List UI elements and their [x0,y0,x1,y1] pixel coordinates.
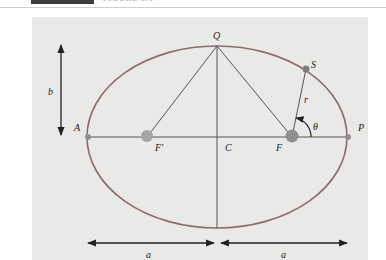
label-p-point: P [357,122,364,133]
label-theta: θ [313,121,318,132]
line-q-fprime [147,46,217,137]
focus-f [286,130,299,143]
label-a-point: A [73,122,81,133]
label-q: Q [213,30,221,41]
label-s: S [311,59,316,70]
line-q-f [217,46,292,137]
theta-arc [296,118,311,137]
point-p [345,134,351,140]
label-c: C [225,142,232,153]
label-b: b [48,86,53,97]
point-a [85,134,91,140]
focus-f-prime [141,130,153,142]
point-s [303,66,310,73]
label-a-left: a [146,249,151,260]
label-f-prime: F′ [154,142,164,153]
label-f: F [275,142,283,153]
ellipse-diagram: Q S r θ A P F′ C F b a a [0,0,386,260]
label-a-right: a [281,249,286,260]
label-r: r [304,94,308,105]
